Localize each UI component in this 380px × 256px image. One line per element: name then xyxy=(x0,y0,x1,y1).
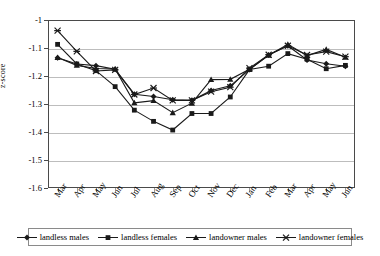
y-tick-mark xyxy=(44,132,48,133)
legend-item-landowner-females[interactable]: landowner females xyxy=(276,233,363,242)
data-point-marker xyxy=(106,235,111,240)
data-point-marker xyxy=(282,234,289,240)
y-tick-label: -1.6 xyxy=(16,184,42,193)
y-tick-label: -1.1 xyxy=(16,44,42,53)
gridline xyxy=(49,133,354,134)
line-chart: z-score -1-1.1-1.2-1.3-1.4-1.5-1.6 MarAp… xyxy=(0,0,380,256)
y-tick-label: -1.3 xyxy=(16,100,42,109)
triangle-marker-icon xyxy=(186,233,206,242)
y-tick-label: -1 xyxy=(16,16,42,25)
diamond-marker-icon xyxy=(17,233,37,242)
legend-label: landless females xyxy=(121,233,177,242)
y-tick-mark xyxy=(44,48,48,49)
square-marker-icon xyxy=(98,233,118,242)
data-point-marker xyxy=(193,234,199,240)
legend-item-landless-males[interactable]: landless males xyxy=(17,233,89,242)
gridline xyxy=(49,77,354,78)
y-tick-label: -1.2 xyxy=(16,72,42,81)
gridline xyxy=(49,161,354,162)
legend-label: landowner males xyxy=(209,233,267,242)
y-tick-label: -1.5 xyxy=(16,156,42,165)
y-tick-mark xyxy=(44,76,48,77)
legend-item-landless-females[interactable]: landless females xyxy=(98,233,177,242)
y-tick-mark xyxy=(44,20,48,21)
legend-label: landowner females xyxy=(299,233,363,242)
y-tick-mark xyxy=(44,188,48,189)
plot-area xyxy=(48,20,355,188)
cross-marker-icon xyxy=(276,233,296,242)
y-tick-mark xyxy=(44,104,48,105)
legend-item-landowner-males[interactable]: landowner males xyxy=(186,233,267,242)
legend-label: landless males xyxy=(40,233,89,242)
y-axis-title: z-score xyxy=(0,64,7,89)
y-tick-mark xyxy=(44,160,48,161)
gridline xyxy=(49,105,354,106)
y-tick-label: -1.4 xyxy=(16,128,42,137)
gridline xyxy=(49,49,354,50)
data-point-marker xyxy=(24,234,30,240)
chart-legend: landless maleslandless femaleslandowner … xyxy=(28,228,352,246)
